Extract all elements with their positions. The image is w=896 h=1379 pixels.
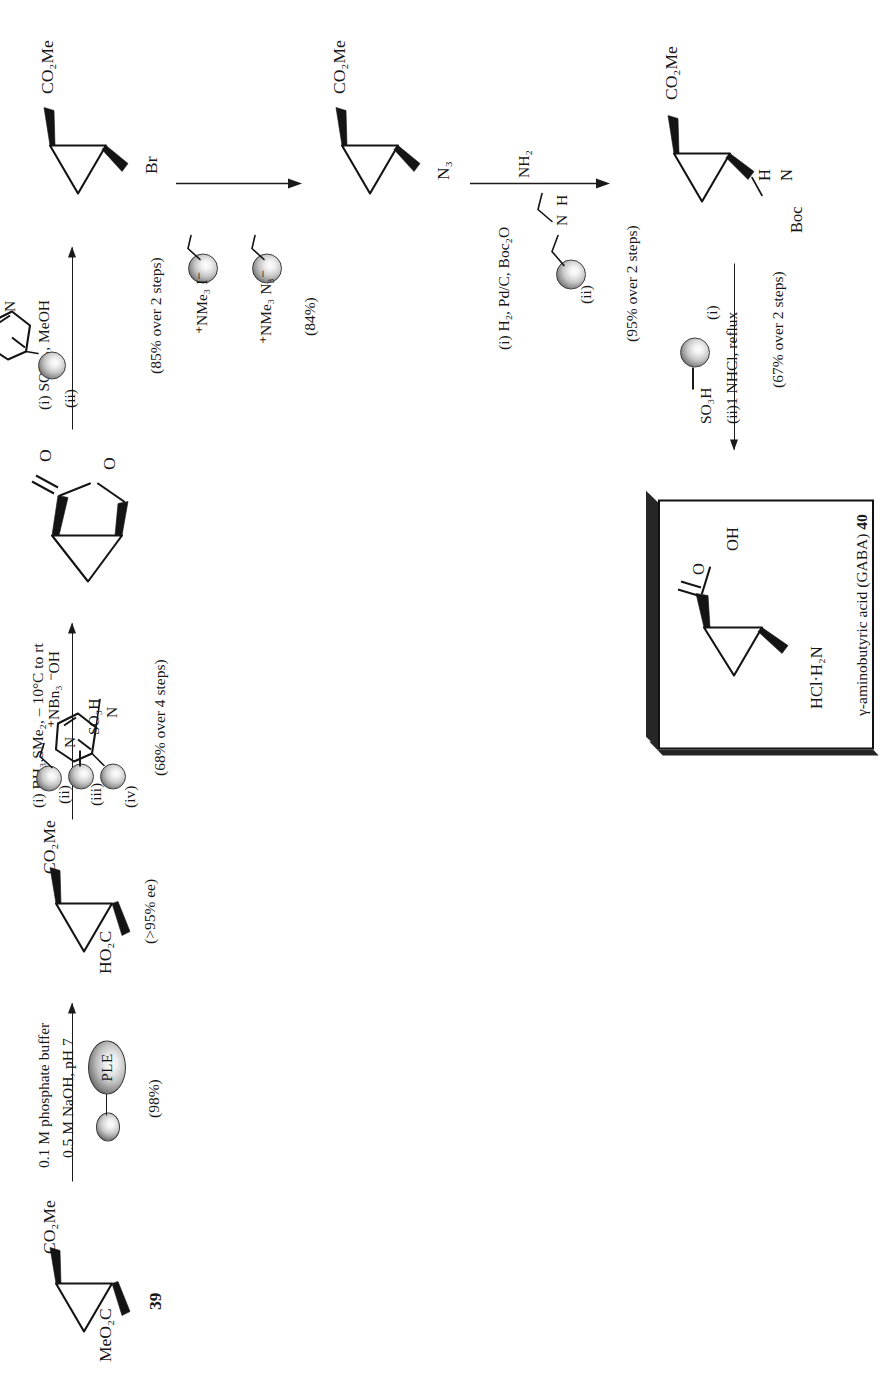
reaction-scheme-canvas: MeO₂C CO₂Me 39 0.1 M phosphate buffer 0.… <box>0 0 896 1379</box>
label-co2me-monoacid: CO₂Me <box>20 820 79 891</box>
label-lactone-ring-o: O <box>80 457 139 487</box>
step2-yield: (68% over 4 steps) <box>134 659 186 791</box>
label-co2me-boc: CO₂Me <box>642 46 701 117</box>
resin-linker-so3h-b <box>692 367 694 389</box>
rotated-page-wrapper: MeO₂C CO₂Me 39 0.1 M phosphate buffer 0.… <box>0 0 896 1379</box>
ple-linker <box>106 1093 107 1115</box>
step6-reagent-ii: (ii)1 NHCl, reflux <box>706 311 758 439</box>
label-nh2: NH₂ <box>498 150 550 193</box>
label-co2me-39: CO₂Me <box>20 1200 79 1271</box>
label-boc-h: H <box>738 169 793 197</box>
label-co2me-azide: CO₂Me <box>310 40 369 111</box>
ee-note: (>95% ee) <box>124 878 176 959</box>
enzyme-ple-label: PLE <box>99 1053 116 1081</box>
step3-yield: (85% over 2 steps) <box>130 257 182 389</box>
resin-linker-nme3i <box>178 233 204 261</box>
step1-reagent-line2: 0.5 M NaOH, pH 7 <box>42 1038 94 1173</box>
step5-roman-ii: (ii) <box>560 285 612 319</box>
label-boc: Boc <box>770 206 825 249</box>
step5-yield: (95% over 2 steps) <box>606 225 658 357</box>
label-br: Br <box>122 156 181 191</box>
step4-arrow <box>176 173 302 193</box>
resin-bead-ple <box>96 1112 120 1141</box>
step4-arrow-wrap <box>176 173 302 193</box>
step1-yield: (98%) <box>128 1079 180 1133</box>
label-step3-pyridine-n: N <box>0 300 36 327</box>
label-amine-h: H <box>536 194 588 221</box>
label-dmap-n: N <box>86 706 138 733</box>
label-lactone-carbonyl-o: O <box>16 449 75 479</box>
enzyme-ple-ellipse: PLE <box>88 1040 126 1094</box>
compound-number-39: 39 <box>126 1292 185 1327</box>
resin-linker-nme3n3 <box>242 233 268 261</box>
step3-roman-ii: (ii) <box>44 389 96 423</box>
label-n3: N₃ <box>414 161 473 197</box>
label-gaba-oh: OH <box>706 527 761 567</box>
step4-yield: (84%) <box>284 297 336 351</box>
step6-yield: (67% over 2 steps) <box>752 271 804 403</box>
label-pyridine-n: N <box>44 736 96 763</box>
product-number-40: 40 <box>853 514 870 530</box>
product-caption: γ-aminobutyric acid (GABA) 40 <box>836 514 888 731</box>
label-co2me-bromide: CO₂Me <box>18 40 77 111</box>
label-nme3i: ⁺NMe₃ I⁻ <box>176 271 228 349</box>
